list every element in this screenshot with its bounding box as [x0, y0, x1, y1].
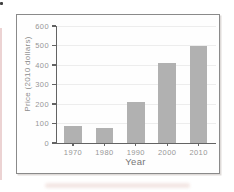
y-axis-tick-label: 200: [29, 100, 49, 109]
x-axis-title: Year: [56, 156, 215, 167]
bar: [127, 102, 145, 143]
print-bleed-smudge: [45, 183, 190, 188]
gridline: [57, 26, 216, 27]
bar: [64, 126, 82, 143]
y-axis-tick-label: 500: [29, 41, 49, 50]
x-axis-tick: [135, 143, 136, 146]
x-axis-tick: [72, 143, 73, 146]
x-axis-tick: [104, 143, 105, 146]
bar: [158, 63, 176, 143]
y-axis-tick: [52, 45, 56, 46]
y-axis-tick-label: 100: [29, 119, 49, 128]
y-axis-tick-label: 400: [29, 61, 49, 70]
bar: [190, 46, 208, 144]
y-axis-tick: [52, 64, 56, 65]
bar-chart-plot-area: 010020030040050060019701980199020002010: [56, 26, 216, 144]
bar: [96, 128, 114, 143]
y-axis-tick: [52, 103, 56, 104]
y-axis-tick: [52, 84, 56, 85]
x-axis-tick: [198, 143, 199, 146]
chart-frame: 010020030040050060019701980199020002010 …: [16, 14, 220, 174]
y-axis-tick-label: 600: [29, 22, 49, 31]
y-axis-tick-label: 0: [29, 139, 49, 148]
page-edge-bleed: [0, 28, 2, 180]
y-axis-tick: [52, 142, 56, 143]
y-axis-tick: [52, 123, 56, 124]
y-axis-tick: [52, 25, 56, 26]
y-axis-title: Price (2010 dollars): [23, 36, 32, 111]
x-axis-tick: [167, 143, 168, 146]
y-axis-tick-label: 300: [29, 80, 49, 89]
page-edge-mark: [0, 2, 3, 5]
